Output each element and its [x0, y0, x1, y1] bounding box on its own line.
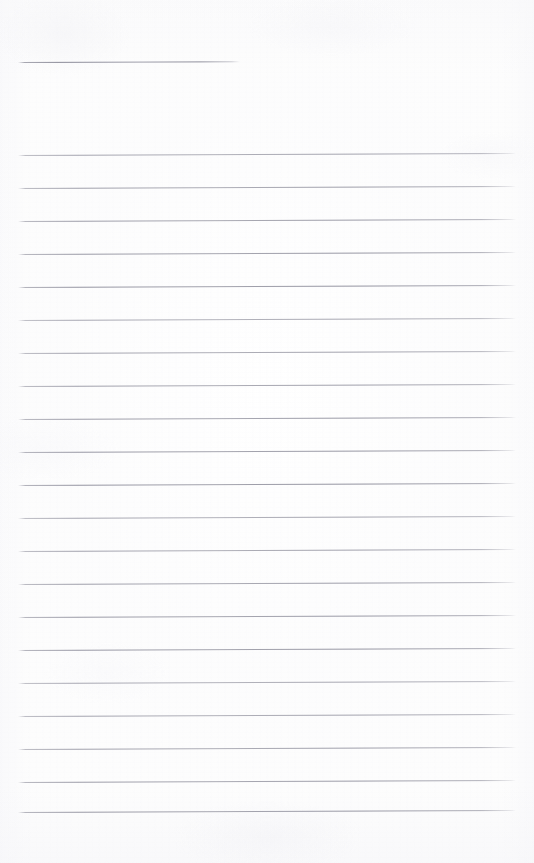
writing-area[interactable] — [0, 0, 534, 863]
rule-line — [18, 351, 516, 354]
rule-line — [18, 648, 516, 651]
rule-lines — [0, 0, 534, 863]
rule-line — [18, 681, 516, 684]
rule-line — [18, 810, 516, 813]
rule-line — [18, 153, 516, 156]
rule-line — [18, 714, 516, 717]
rule-line — [18, 582, 516, 585]
rule-line — [18, 252, 516, 255]
rule-line — [18, 483, 516, 486]
rule-line — [18, 747, 516, 750]
rule-line — [18, 186, 516, 189]
rule-line — [18, 450, 516, 453]
rule-line — [18, 615, 516, 618]
lined-paper-page — [0, 0, 534, 863]
rule-line — [18, 549, 516, 552]
rule-line — [18, 219, 516, 222]
rule-line — [18, 285, 516, 288]
rule-line — [18, 417, 516, 420]
rule-line — [18, 384, 516, 387]
rule-line — [18, 318, 516, 321]
rule-line — [18, 516, 516, 519]
rule-line — [18, 780, 516, 783]
